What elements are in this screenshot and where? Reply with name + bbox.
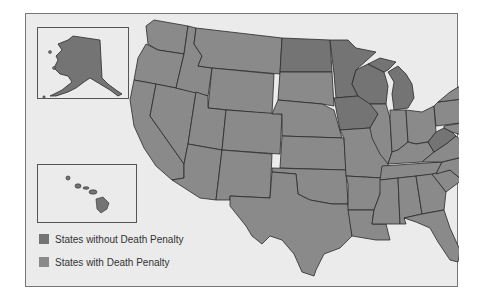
state-colorado[interactable] bbox=[222, 110, 282, 154]
legend-item-without: States without Death Penalty bbox=[39, 232, 183, 246]
state-kansas[interactable] bbox=[280, 136, 346, 170]
swatch-with-icon bbox=[39, 257, 49, 267]
swatch-without-icon bbox=[39, 234, 49, 244]
state-new-york[interactable] bbox=[438, 66, 459, 104]
state-new-mexico[interactable] bbox=[216, 150, 272, 200]
legend-label-without: States without Death Penalty bbox=[55, 234, 183, 245]
legend-item-with: States with Death Penalty bbox=[39, 255, 183, 269]
map-frame: States without Death Penalty States with… bbox=[25, 13, 458, 287]
legend-label-with: States with Death Penalty bbox=[55, 257, 170, 268]
legend: States without Death Penalty States with… bbox=[39, 232, 183, 278]
state-florida[interactable] bbox=[404, 210, 459, 262]
state-north-dakota[interactable] bbox=[280, 38, 332, 72]
state-montana[interactable] bbox=[194, 28, 282, 74]
state-wyoming[interactable] bbox=[208, 68, 274, 114]
